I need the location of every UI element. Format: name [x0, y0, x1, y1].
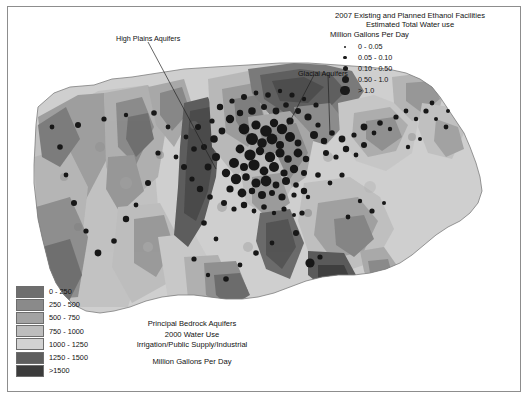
ethanol-legend-label: 0.10 - 0.50 — [358, 64, 392, 73]
ethanol-symbol-0 — [336, 46, 354, 48]
ramp-swatch-5 — [16, 352, 44, 364]
ramp-legend-label: 750 - 1000 — [49, 327, 84, 336]
ramp-legend-label: 250 - 500 — [49, 300, 80, 309]
ramp-swatch-3 — [16, 325, 44, 337]
ramp-swatch-6 — [16, 365, 44, 377]
figure-root: 2007 Existing and Planned Ethanol Facili… — [0, 0, 526, 396]
ramp-legend-item: 0 - 250 — [16, 285, 108, 298]
ramp-swatch-4 — [16, 338, 44, 350]
ethanol-legend-title-line3: Million Gallons Per Day — [306, 30, 514, 39]
map-frame: 2007 Existing and Planned Ethanol Facili… — [7, 6, 521, 392]
ramp-legend-label: 1250 - 1500 — [49, 353, 88, 362]
ramp-swatch-0 — [16, 286, 44, 298]
ramp-legend-label: 0 - 250 — [49, 287, 72, 296]
ramp-legend-label: >1500 — [49, 366, 70, 375]
ramp-legend-item: 250 - 500 — [16, 298, 108, 311]
ethanol-legend-item: > 1.0 — [306, 85, 514, 96]
ramp-swatch-2 — [16, 312, 44, 324]
ethanol-facilities-legend: 2007 Existing and Planned Ethanol Facili… — [306, 11, 514, 96]
ethanol-legend-label: > 1.0 — [358, 86, 374, 95]
annotation-high-plains-aquifers: High Plains Aquifers — [116, 34, 180, 43]
ramp-legend-item: >1500 — [16, 364, 108, 377]
caption-line-2: 2000 Water Use — [112, 330, 272, 341]
ethanol-legend-label: 0.50 - 1.0 — [358, 75, 388, 84]
ramp-legend-label: 500 - 750 — [49, 313, 80, 322]
ramp-legend-label: 1000 - 1250 — [49, 340, 88, 349]
annotation-glacial-aquifers: Glacial Aquifers — [298, 69, 348, 78]
ramp-legend-item: 1000 - 1250 — [16, 338, 108, 351]
ramp-legend-item: 1250 - 1500 — [16, 351, 108, 364]
caption-line-1: Principal Bedrock Aquifers — [112, 319, 272, 330]
ethanol-legend-item: 0 - 0.05 — [306, 41, 514, 52]
caption-line-4: Million Gallons Per Day — [112, 357, 272, 368]
ramp-legend-item: 500 - 750 — [16, 311, 108, 324]
bedrock-aquifers-caption: Principal Bedrock Aquifers 2000 Water Us… — [112, 319, 272, 367]
ramp-swatch-1 — [16, 299, 44, 311]
ramp-legend-item: 750 - 1000 — [16, 325, 108, 338]
caption-line-3: Irrigation/Public Supply/Industrial — [112, 340, 272, 351]
ethanol-legend-label: 0 - 0.05 — [358, 42, 382, 51]
ethanol-legend-title-line1: 2007 Existing and Planned Ethanol Facili… — [306, 11, 514, 20]
ethanol-legend-title: 2007 Existing and Planned Ethanol Facili… — [306, 11, 514, 39]
water-use-ramp-legend: 0 - 250 250 - 500 500 - 750 750 - 1000 1… — [16, 285, 108, 377]
ethanol-symbol-1 — [336, 56, 354, 60]
ethanol-legend-item: 0.05 - 0.10 — [306, 52, 514, 63]
ethanol-legend-label: 0.05 - 0.10 — [358, 53, 392, 62]
ethanol-legend-title-line2: Estimated Total Water use — [306, 20, 514, 29]
ethanol-symbol-4 — [336, 86, 354, 96]
